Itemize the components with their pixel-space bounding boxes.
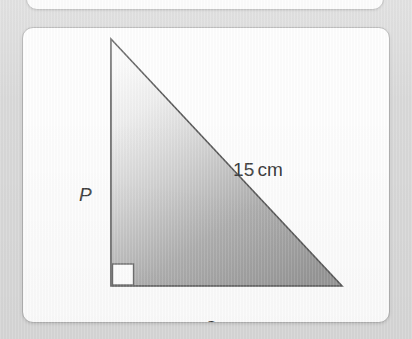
partial-card-above xyxy=(26,0,384,10)
base-length-label: 8cm xyxy=(206,318,245,323)
hypotenuse-value: 15 xyxy=(233,159,255,180)
hypotenuse-length-label: 15cm xyxy=(233,160,283,179)
right-angle-square xyxy=(113,264,134,285)
base-value: 8 xyxy=(206,317,217,323)
triangle-figure xyxy=(23,28,389,322)
figure-card: 15cm 8cm P xyxy=(22,27,390,323)
base-unit: cm xyxy=(220,317,245,323)
hypotenuse-unit: cm xyxy=(258,159,283,180)
triangle-shape xyxy=(111,39,342,286)
vertical-leg-label: P xyxy=(79,185,92,204)
